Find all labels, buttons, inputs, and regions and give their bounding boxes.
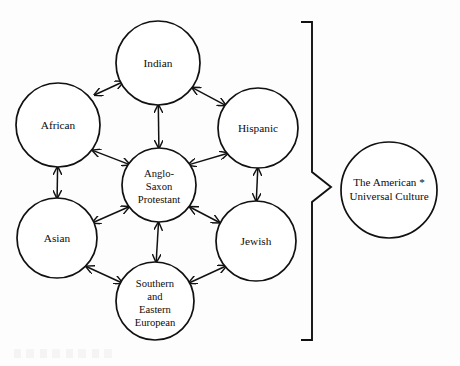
connector-hispanic-jewish xyxy=(256,168,258,201)
connector-asian-southern-eastern-european xyxy=(86,267,122,284)
connector-jewish-southern-eastern-european xyxy=(189,266,226,283)
connector-indian-hispanic xyxy=(192,88,225,106)
node-hispanic-label: Hispanic xyxy=(238,122,278,134)
node-se-european-label-line4: European xyxy=(135,317,176,328)
node-core-label-line1: Anglo- xyxy=(144,168,174,179)
grouping-bracket-path xyxy=(301,22,331,340)
connector-indian-core xyxy=(158,105,159,148)
connector-african-indian xyxy=(94,82,123,95)
node-jewish-label: Jewish xyxy=(241,235,272,247)
node-american-universal-culture[interactable]: The American * Universal Culture xyxy=(341,142,437,238)
scan-artifact-smudge xyxy=(14,349,118,358)
node-asian[interactable]: Asian xyxy=(17,198,97,278)
diagram-canvas: Indian African Hispanic Asian Jewish Ang… xyxy=(0,0,460,366)
connector-african-asian xyxy=(57,167,58,198)
node-indian[interactable]: Indian xyxy=(116,21,200,105)
connector-hispanic-core xyxy=(188,153,228,165)
node-core-label-line2: Saxon xyxy=(146,181,173,192)
diagram-root: Indian African Hispanic Asian Jewish Ang… xyxy=(0,0,460,366)
node-se-european-label-line2: and xyxy=(147,291,163,302)
node-hispanic[interactable]: Hispanic xyxy=(218,88,298,168)
connector-jewish-core xyxy=(190,207,220,223)
connector-core-southern-eastern-european xyxy=(156,223,158,263)
connector-asian-core xyxy=(93,207,129,223)
node-outcome-label-line2: Universal Culture xyxy=(349,190,428,202)
node-african[interactable]: African xyxy=(16,83,100,167)
node-core-label-line3: Protestant xyxy=(138,194,180,205)
node-jewish[interactable]: Jewish xyxy=(216,201,296,281)
node-african-label: African xyxy=(41,119,76,131)
node-anglo-saxon-protestant[interactable]: Anglo- Saxon Protestant xyxy=(122,148,196,222)
node-se-european-label-line1: Southern xyxy=(136,278,175,289)
grouping-bracket xyxy=(301,22,331,340)
node-se-european-label-line3: Eastern xyxy=(139,304,171,315)
node-indian-label: Indian xyxy=(144,57,173,69)
connector-african-core xyxy=(93,150,130,164)
node-southern-eastern-european[interactable]: Southern and Eastern European xyxy=(116,262,194,340)
node-asian-label: Asian xyxy=(44,232,71,244)
node-outcome-label-line1: The American * xyxy=(353,176,425,188)
